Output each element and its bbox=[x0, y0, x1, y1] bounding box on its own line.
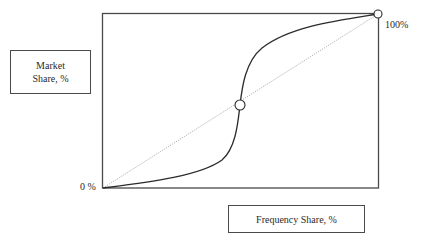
y-axis-label-line1: Market bbox=[32, 59, 68, 72]
inflection-point-marker bbox=[235, 100, 245, 110]
origin-label: 0 % bbox=[80, 181, 96, 192]
y-axis-label-box: Market Share, % bbox=[10, 50, 91, 94]
max-value-label: 100% bbox=[385, 19, 408, 30]
x-axis-label-box: Frequency Share, % bbox=[228, 205, 365, 233]
x-axis-label: Frequency Share, % bbox=[256, 213, 337, 226]
y-axis-label-line2: Share, % bbox=[32, 72, 68, 85]
end-point-marker bbox=[374, 10, 382, 18]
